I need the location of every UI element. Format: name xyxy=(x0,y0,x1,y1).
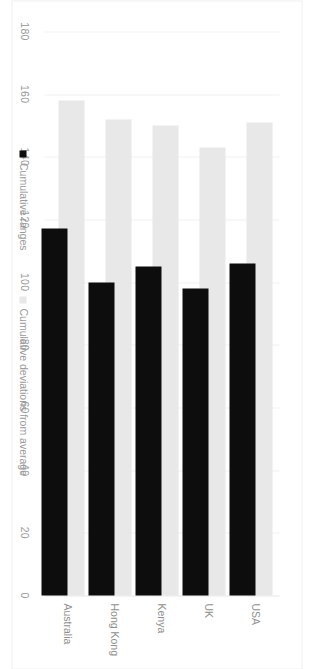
bar-cumulative-ranges[interactable] xyxy=(182,288,208,595)
category-group: USA xyxy=(232,31,279,595)
plot-area: 180160140120100806040200AustraliaHong Ko… xyxy=(44,31,279,595)
legend-label: Cumulative ranges xyxy=(17,162,29,250)
chart-legend: Cumulative rangesCumulative deviations f… xyxy=(12,31,34,595)
category-label: Hong Kong xyxy=(109,603,121,656)
bar-cumulative-ranges[interactable] xyxy=(41,228,67,595)
category-group: Kenya xyxy=(138,31,185,595)
plot-frame: 180160140120100806040200AustraliaHong Ko… xyxy=(11,0,302,669)
category-label: Australia xyxy=(62,603,74,644)
black-square-icon xyxy=(20,150,27,157)
chart-canvas: 180160140120100806040200AustraliaHong Ko… xyxy=(0,0,311,669)
category-label: Kenya xyxy=(156,603,168,633)
category-label: UK xyxy=(203,603,215,618)
category-group: Australia xyxy=(44,31,91,595)
legend-item[interactable]: Cumulative ranges xyxy=(17,150,29,250)
category-group: Hong Kong xyxy=(91,31,138,595)
legend-item[interactable]: Cumulative deviations from average xyxy=(17,296,29,476)
bar-chart-figure: 180160140120100806040200AustraliaHong Ko… xyxy=(0,0,311,669)
bar-cumulative-ranges[interactable] xyxy=(229,263,255,595)
category-label: USA xyxy=(250,603,262,625)
bar-cumulative-ranges[interactable] xyxy=(135,266,161,595)
category-group: UK xyxy=(185,31,232,595)
legend-label: Cumulative deviations from average xyxy=(17,308,29,476)
bar-cumulative-ranges[interactable] xyxy=(88,282,114,595)
gray-square-icon xyxy=(20,296,27,303)
